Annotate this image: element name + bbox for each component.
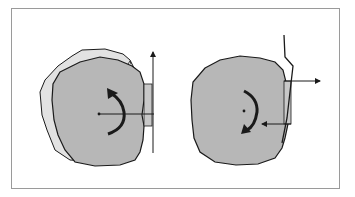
- left-panel: [40, 49, 154, 166]
- contact-rect: [144, 84, 152, 126]
- diagram-canvas: [0, 0, 355, 197]
- blob: [191, 56, 288, 165]
- pivot-dot: [243, 110, 246, 113]
- right-panel: [191, 35, 320, 165]
- pivot-dot: [98, 113, 101, 116]
- front-blob: [52, 57, 144, 166]
